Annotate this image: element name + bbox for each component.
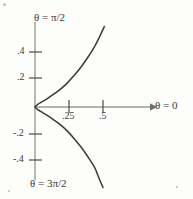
- y-tick-label-neg-4: -.4: [13, 154, 24, 164]
- polar-axis-figure: θ = π/2 θ = 3π/2 θ = 0 .4 .2 -.2 -.4 .25…: [0, 0, 193, 199]
- x-tick-label-quarter: .25: [62, 111, 75, 121]
- x-tick-label-half: .5: [99, 111, 107, 121]
- y-tick-label-pos-4: .4: [17, 46, 25, 56]
- label-theta-zero: θ = 0: [155, 100, 177, 111]
- curve-upper-branch: [35, 27, 104, 107]
- scan-speck: [8, 190, 10, 192]
- y-tick-label-neg-2: -.2: [13, 128, 24, 138]
- y-tick-label-pos-2: .2: [17, 72, 25, 82]
- scan-speck: [3, 3, 6, 6]
- label-theta-half-pi: θ = π/2: [34, 12, 65, 23]
- scan-speck: [176, 186, 178, 188]
- label-theta-three-half-pi: θ = 3π/2: [30, 178, 67, 189]
